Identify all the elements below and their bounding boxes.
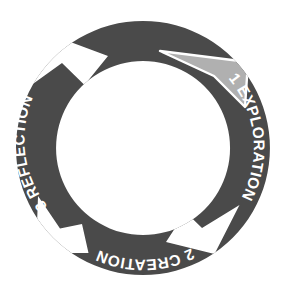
cycle-diagram-svg: 4 IMPLEMENTATION 1 EXPLORATION 2 CREATIO… (0, 0, 287, 293)
cycle-diagram: 4 IMPLEMENTATION 1 EXPLORATION 2 CREATIO… (0, 0, 287, 293)
